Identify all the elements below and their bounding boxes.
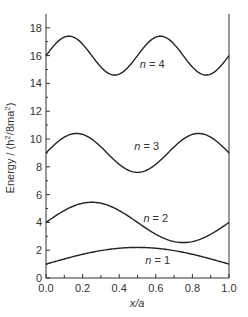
axes: 0246810121416180.00.20.40.60.81.0 (30, 14, 237, 294)
y-tick-label: 12 (30, 105, 42, 117)
curve-label: n = 3 (134, 140, 159, 152)
x-tick-label: 0.0 (38, 282, 53, 294)
energy-levels-chart: 0246810121416180.00.20.40.60.81.0 n = 4n… (0, 0, 248, 317)
y-tick-label: 8 (36, 161, 42, 173)
y-tick-label: 18 (30, 22, 42, 34)
curve-labels: n = 4n = 3n = 2n = 1 (134, 58, 170, 266)
x-tick-label: 1.0 (221, 282, 236, 294)
curve-label: n = 4 (140, 58, 165, 70)
x-tick-label: 0.4 (112, 282, 127, 294)
curve-n1 (46, 247, 229, 264)
y-axis-label: Energy / (h2/8ma2) (3, 103, 17, 194)
y-tick-label: 14 (30, 77, 42, 89)
y-tick-label: 16 (30, 50, 42, 62)
curve-label: n = 2 (143, 212, 168, 224)
y-tick-label: 4 (36, 216, 42, 228)
x-tick-label: 0.6 (148, 282, 163, 294)
y-tick-label: 6 (36, 189, 42, 201)
y-tick-label: 2 (36, 244, 42, 256)
y-tick-label: 10 (30, 133, 42, 145)
curve-n4 (46, 36, 229, 75)
x-axis-label: x/a (129, 297, 145, 309)
curve-label: n = 1 (145, 254, 170, 266)
curve-n2 (46, 202, 229, 242)
x-tick-label: 0.8 (185, 282, 200, 294)
x-tick-label: 0.2 (75, 282, 90, 294)
